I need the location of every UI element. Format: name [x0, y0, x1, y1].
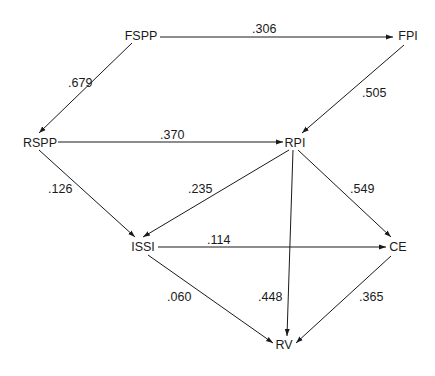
node-fspp: FSPP: [125, 29, 158, 43]
edge-fpi-to-rpi: [302, 45, 404, 133]
edge-label-rspp-issi: .126: [48, 182, 72, 196]
node-rspp: RSPP: [23, 136, 57, 150]
edge-label-rpi-rv: .448: [258, 290, 282, 304]
edge-label-fpi-rpi: .505: [362, 86, 386, 100]
edge-labels-layer: .306.679.505.370.126.235.549.448.114.060…: [48, 22, 386, 304]
edge-label-rspp-rpi: .370: [160, 128, 184, 142]
edge-label-ce-rv: .365: [359, 290, 383, 304]
edge-label-issi-rv: .060: [167, 290, 191, 304]
path-diagram: .306.679.505.370.126.235.549.448.114.060…: [0, 0, 435, 376]
edge-label-rpi-issi: .235: [188, 182, 212, 196]
node-ce: CE: [389, 240, 406, 254]
edge-label-rpi-ce: .549: [350, 182, 374, 196]
node-rpi: RPI: [285, 136, 306, 150]
edge-rpi-to-ce: [298, 150, 391, 237]
node-issi: ISSI: [131, 240, 155, 254]
edge-rpi-to-issi: [143, 150, 289, 237]
edge-label-fspp-rspp: .679: [68, 76, 92, 90]
edge-label-issi-ce: .114: [207, 233, 230, 247]
node-fpi: FPI: [398, 29, 417, 43]
edge-rpi-to-rv: [287, 150, 293, 336]
node-rv: RV: [275, 338, 293, 352]
edge-label-fspp-fpi: .306: [252, 22, 276, 36]
